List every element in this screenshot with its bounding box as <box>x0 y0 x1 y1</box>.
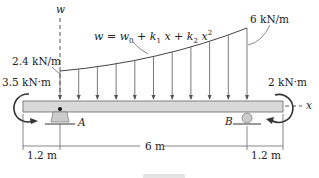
load-arrow-head <box>77 95 81 100</box>
support-a-label: A <box>78 117 86 128</box>
beam <box>23 101 283 112</box>
dimension-middle: 6 m <box>145 141 165 152</box>
load-arrow-head <box>226 95 230 100</box>
support-a <box>51 112 69 122</box>
load-equation: w = w0 + k1 x + k2 x2 <box>94 30 212 45</box>
load-arrow-head <box>95 95 99 100</box>
dimension-left: 1.2 m <box>27 150 57 161</box>
left-moment-arrowhead <box>30 118 38 124</box>
load-arrow-head <box>245 95 249 100</box>
load-arrow-head <box>114 95 118 100</box>
right-moment-arrowhead <box>266 117 274 124</box>
dimension-right: 1.2 m <box>251 150 281 161</box>
x-axis-label: x <box>306 100 312 111</box>
load-arrow-head <box>189 95 193 100</box>
right-moment-label: 2 kN·m <box>268 77 307 88</box>
support-b-roller <box>242 113 252 123</box>
load-arrow-head <box>58 95 62 100</box>
load-arrow-head <box>152 95 156 100</box>
origin-dot <box>58 107 62 111</box>
load-start-label: 2.4 kN/m <box>12 56 61 67</box>
load-arrow-head <box>208 95 212 100</box>
load-arrow-head <box>133 95 137 100</box>
support-b-label: B <box>225 116 233 127</box>
load-arrow-head <box>170 95 174 100</box>
leader-6 <box>248 25 270 45</box>
caption-fragment <box>143 174 185 178</box>
left-moment-label: 3.5 kN·m <box>2 77 51 88</box>
load-end-label: 6 kN/m <box>250 14 289 25</box>
leader-2-4 <box>52 67 60 74</box>
w-axis-label: w <box>56 4 65 15</box>
